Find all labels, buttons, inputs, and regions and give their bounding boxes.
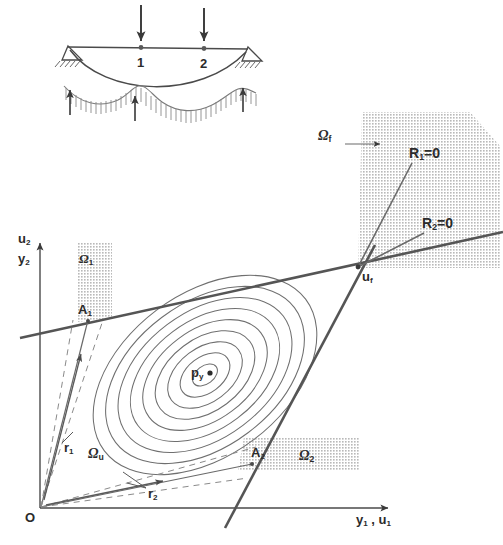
uf-subscript: f (370, 276, 373, 285)
r2-symbol: R (422, 215, 432, 231)
r2-equals-zero-label: R2=0 (422, 216, 453, 230)
omega-u-label: Ωu (88, 446, 104, 461)
r2-leader-a (123, 472, 146, 488)
omega-1-symbol: Ω (79, 251, 89, 266)
cone-dash-1a (41, 320, 73, 507)
cone-edge-2 (41, 464, 252, 507)
node-dot-1 (139, 45, 144, 50)
omega-1-subscript: 1 (89, 258, 93, 267)
omega-2-label: Ω2 (299, 448, 314, 463)
omega-f-region (358, 112, 500, 268)
x-axis-label: y1 , u1 (356, 513, 391, 526)
ray-r1-arrow (44, 354, 81, 500)
a2-point (250, 462, 254, 466)
omega-2-symbol: Ω (299, 448, 309, 463)
p-y-dot (207, 370, 212, 375)
p-y-label: py (191, 366, 203, 379)
r1-subscript: 1 (419, 152, 424, 162)
u2-symbol: u (18, 231, 26, 246)
ground-wave (64, 86, 256, 111)
node-dot-2 (202, 46, 207, 51)
omega-f-label: Ωf (318, 128, 331, 143)
contour-3 (155, 328, 255, 422)
axis-label-separator: , (368, 512, 379, 527)
a1-subscript: 1 (87, 309, 91, 318)
uf-symbol: u (362, 269, 370, 284)
contour-5 (122, 297, 288, 453)
u1-subscript: 1 (387, 519, 391, 528)
a2-label: A2 (251, 446, 265, 459)
uf-point (356, 265, 361, 270)
omega-1-label: Ω1 (79, 252, 93, 265)
r2-ray-label: r2 (148, 487, 158, 500)
omega-u-subscript: u (98, 452, 103, 462)
u1-symbol: u (379, 512, 387, 527)
a1-label: A1 (78, 303, 92, 316)
uf-label: uf (362, 270, 373, 283)
ground-hatching (66, 87, 256, 123)
cone-edge-1 (41, 320, 88, 507)
p-subscript: y (199, 372, 203, 381)
y-axis-label-y2: y2 (18, 252, 30, 265)
r2-ray-subscript: 2 (153, 493, 157, 502)
cable-curve (70, 50, 246, 87)
r2-subscript: 2 (432, 222, 437, 232)
ray-r2-arrow (46, 481, 163, 505)
figure-canvas: 1 2 Ωf R1=0 R2=0 uf u2 y2 Ω1 A1 py r1 Ωu… (0, 0, 503, 545)
omega-u-symbol: Ω (88, 446, 98, 461)
r1-ray-label: r1 (64, 441, 74, 454)
omega-f-subscript: f (328, 134, 331, 144)
cone-dash-2b (41, 478, 248, 507)
r1-symbol: R (409, 145, 419, 161)
cone-omega-u (41, 320, 256, 507)
top-chord (68, 47, 248, 49)
diagram-svg (0, 0, 503, 545)
y1-subscript: 1 (363, 519, 367, 528)
y-axis-label-u2: u2 (18, 232, 30, 245)
r2-suffix: =0 (437, 215, 453, 231)
a1-point (86, 319, 90, 323)
p-symbol: p (191, 365, 199, 380)
a2-symbol: A (251, 445, 260, 460)
a2-subscript: 2 (260, 452, 264, 461)
r1-suffix: =0 (424, 145, 440, 161)
omega-2-subscript: 2 (309, 454, 314, 464)
omega-f-symbol: Ω (318, 128, 328, 143)
a1-symbol: A (78, 302, 87, 317)
y2-subscript: 2 (25, 258, 29, 267)
u2-subscript: 2 (26, 238, 30, 247)
r1-equals-zero-label: R1=0 (409, 146, 440, 160)
origin-label: O (25, 511, 35, 524)
structure-group (55, 5, 262, 123)
node-label-1: 1 (137, 56, 144, 69)
contour-2 (172, 344, 238, 406)
r1-ray-subscript: 1 (69, 447, 73, 456)
node-label-2: 2 (200, 57, 207, 70)
